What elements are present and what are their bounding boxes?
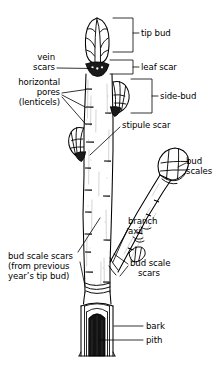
cut-section <box>79 303 115 356</box>
side-bud-upper <box>111 81 130 116</box>
bud-scale-scar-rings <box>85 283 110 294</box>
label-bud-scale-scars-right: bud scale scars <box>130 258 170 278</box>
branch-tip-bud <box>158 148 189 184</box>
twig-diagram: tip bud leaf scar side-bud vein scars ho… <box>0 0 219 365</box>
leader-stipule-scar <box>90 127 120 155</box>
label-lenticels: horizontal pores (lenticels) <box>2 77 60 108</box>
leader-tip-bud <box>113 18 139 52</box>
label-leaf-scar: leaf scar <box>141 62 177 72</box>
label-side-bud: side-bud <box>160 91 196 101</box>
side-branch <box>110 148 189 272</box>
leader-bud-scales <box>178 163 186 167</box>
leader-leaf-scar <box>110 60 139 74</box>
label-bud-scales: bud scales <box>186 156 212 176</box>
label-vein-scars: vein scars <box>5 52 55 72</box>
leader-vein-scars <box>57 68 93 69</box>
label-tip-bud: tip bud <box>141 28 171 38</box>
label-bark: bark <box>146 321 165 331</box>
leaf-scar-top <box>86 62 109 76</box>
label-bud-scale-scars-left: bud scale scars (from previous year’s ti… <box>8 251 73 282</box>
label-stipule-scar: stipule scar <box>122 120 170 130</box>
leader-side-bud <box>131 79 158 113</box>
leader-lenticels <box>62 90 86 125</box>
label-pith: pith <box>146 335 162 345</box>
side-bud-mid <box>69 127 86 161</box>
tip-bud <box>85 18 109 65</box>
label-branch-axil: branch axil <box>128 216 157 236</box>
lenticel-marks <box>85 89 112 282</box>
